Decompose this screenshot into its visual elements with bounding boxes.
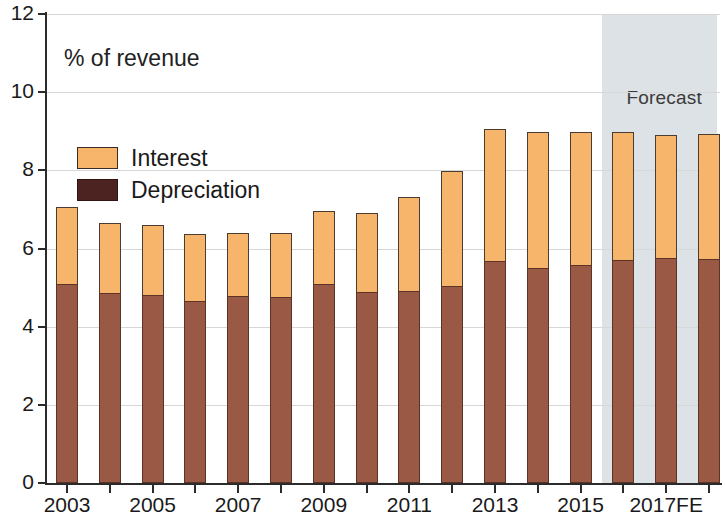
bar-segment-interest <box>227 233 249 297</box>
x-axis-tick <box>280 484 282 493</box>
bar-column <box>398 14 420 483</box>
x-axis-tick <box>366 484 368 493</box>
x-axis-tick <box>708 484 710 493</box>
bar-segment-depreciation <box>270 297 292 483</box>
bar-segment-interest <box>356 213 378 294</box>
y-axis-tick-label: 8 <box>0 157 34 181</box>
x-axis-tick <box>109 484 111 493</box>
bar-segment-depreciation <box>527 268 549 483</box>
bar-column <box>655 14 677 483</box>
x-axis-tick <box>665 484 667 493</box>
bar-segment-interest <box>612 132 634 261</box>
bar-segment-depreciation <box>484 261 506 483</box>
x-axis-tick <box>408 484 410 493</box>
bar-segment-interest <box>527 132 549 269</box>
bar-segment-depreciation <box>184 301 206 483</box>
depreciation-swatch-icon <box>77 179 118 201</box>
bar-segment-depreciation <box>570 265 592 483</box>
bar-segment-depreciation <box>313 284 335 483</box>
bar-segment-depreciation <box>398 291 420 483</box>
bar-column <box>527 14 549 483</box>
plot-area: Forecast <box>46 14 720 483</box>
bar-segment-depreciation <box>142 295 164 483</box>
bar-column <box>270 14 292 483</box>
bar-segment-interest <box>655 135 677 259</box>
bar-column <box>612 14 634 483</box>
y-axis-tick <box>38 169 47 171</box>
axis-title: % of revenue <box>64 45 200 72</box>
y-axis-tick <box>38 404 47 406</box>
y-axis-tick-label: 2 <box>0 392 34 416</box>
chart-container: Forecast 024681012 200320052007200920112… <box>0 0 725 519</box>
bar-segment-depreciation <box>56 284 78 483</box>
x-axis-tick-label: 2017FE <box>606 493 725 517</box>
y-axis-tick-label: 4 <box>0 314 34 338</box>
bar-column <box>56 14 78 483</box>
bar-segment-interest <box>441 171 463 287</box>
legend-item-depreciation: Depreciation <box>77 177 260 203</box>
bar-segment-interest <box>56 207 78 284</box>
bar-segment-depreciation <box>99 293 121 483</box>
x-axis-tick <box>194 484 196 493</box>
bar-segment-depreciation <box>612 260 634 483</box>
bar-segment-interest <box>184 234 206 303</box>
bar-segment-interest <box>570 132 592 265</box>
y-axis-tick-label: 12 <box>0 1 34 25</box>
y-axis-tick <box>38 482 47 484</box>
bar-segment-interest <box>313 211 335 285</box>
x-axis-tick <box>580 484 582 493</box>
bar-segment-interest <box>398 197 420 293</box>
legend-label-depreciation: Depreciation <box>131 177 260 204</box>
bar-column <box>313 14 335 483</box>
x-axis-tick <box>537 484 539 493</box>
y-axis-tick <box>38 248 47 250</box>
bar-segment-depreciation <box>356 292 378 483</box>
bar-segment-depreciation <box>441 286 463 483</box>
bar-column <box>698 14 720 483</box>
x-axis-tick <box>494 484 496 493</box>
bar-column <box>484 14 506 483</box>
bar-column <box>441 14 463 483</box>
x-axis-tick <box>66 484 68 493</box>
y-axis-tick-label: 0 <box>0 470 34 494</box>
x-axis-tick <box>237 484 239 493</box>
interest-swatch-icon <box>77 147 118 169</box>
x-axis-line <box>45 483 722 485</box>
bar-segment-depreciation <box>227 296 249 483</box>
legend-label-interest: Interest <box>131 145 208 172</box>
bar-column <box>184 14 206 483</box>
y-axis-tick <box>38 326 47 328</box>
bar-segment-interest <box>698 134 720 260</box>
y-axis-tick-label: 6 <box>0 236 34 260</box>
bar-segment-interest <box>99 223 121 294</box>
y-axis-tick <box>38 91 47 93</box>
bar-segment-interest <box>142 225 164 296</box>
bar-column <box>570 14 592 483</box>
x-axis-tick <box>622 484 624 493</box>
x-axis-tick <box>451 484 453 493</box>
chart-legend: Interest Depreciation <box>77 145 260 209</box>
y-axis-tick-label: 10 <box>0 79 34 103</box>
bar-segment-interest <box>484 129 506 262</box>
bar-column <box>142 14 164 483</box>
bar-segment-interest <box>270 233 292 298</box>
legend-item-interest: Interest <box>77 145 260 171</box>
bar-column <box>356 14 378 483</box>
bar-segment-depreciation <box>655 258 677 483</box>
bar-column <box>227 14 249 483</box>
y-axis-tick <box>38 13 47 15</box>
bar-segment-depreciation <box>698 259 720 483</box>
x-axis-tick <box>152 484 154 493</box>
bar-column <box>99 14 121 483</box>
x-axis-tick <box>323 484 325 493</box>
